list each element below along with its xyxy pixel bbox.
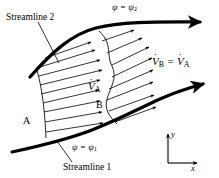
velocity-vector	[45, 112, 102, 122]
section-b-label: B	[96, 100, 103, 110]
v-dot-b: ˙V	[152, 56, 159, 67]
psi-top-symbol: ψ	[112, 2, 118, 12]
streamline-1-leader-line	[57, 141, 72, 162]
v-subscript-a: A	[95, 85, 101, 94]
velocity-vector	[44, 101, 100, 112]
cross-section-b-curve	[99, 31, 117, 124]
streamline-2-label: Streamline 2	[6, 13, 54, 23]
v-dot-a2: ˙V	[177, 56, 184, 67]
v-subscript-b: B	[159, 60, 164, 69]
section-a-label: A	[23, 116, 30, 126]
velocity-vector	[109, 95, 154, 111]
v-dot-a: ˙V	[88, 81, 95, 92]
velocity-vector	[109, 70, 153, 89]
velocity-vector	[102, 30, 134, 41]
psi-top-subscript: 2	[134, 5, 137, 12]
psi-bottom-subscript: 1	[94, 145, 97, 152]
velocity-vector	[107, 82, 153, 100]
axis-y-label: y	[171, 130, 175, 139]
volume-flow-a-label: ˙VA	[88, 81, 100, 94]
psi-bottom-label: ψ = ψ1	[72, 143, 97, 153]
dot-accent-icon: ˙	[179, 53, 182, 63]
streamtube-figure: Streamline 2 Streamline 1 ψ = ψ2 ψ = ψ1 …	[0, 0, 219, 178]
v-subscript-a2: A	[184, 60, 190, 69]
figure-canvas	[0, 0, 219, 178]
velocity-vector	[39, 60, 100, 76]
velocity-vectors-section-b	[102, 30, 156, 122]
volume-flow-equality-label: ˙VB = ˙VA	[152, 56, 189, 69]
cross-section-a-curve	[37, 70, 46, 138]
psi-bottom-symbol: ψ	[72, 142, 78, 152]
psi-top-label: ψ = ψ2	[112, 3, 137, 13]
streamline-1-label: Streamline 1	[63, 163, 111, 173]
dot-accent-icon: ˙	[154, 53, 157, 63]
psi-bottom-equals: =	[80, 142, 86, 152]
velocity-vector	[107, 38, 142, 53]
psi-top-equals: =	[120, 2, 126, 12]
dot-accent-icon: ˙	[90, 78, 93, 88]
axis-x-label: x	[191, 164, 195, 173]
velocity-vector	[112, 58, 152, 77]
streamline-1-curve	[12, 84, 203, 152]
equality-sign: =	[167, 55, 174, 67]
